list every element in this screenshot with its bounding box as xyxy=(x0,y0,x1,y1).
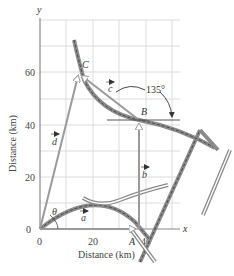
svg-text:c: c xyxy=(108,83,113,94)
svg-text:a: a xyxy=(81,212,86,223)
x-tick-20: 20 xyxy=(88,236,98,247)
y-tick-20: 20 xyxy=(25,172,35,183)
svg-text:d: d xyxy=(52,136,58,147)
vector-diagram: x y 0 20 40 0 20 40 60 Distance (km) Dis… xyxy=(0,0,234,276)
theta-label: θ xyxy=(52,206,57,217)
angle-135-label: 135° xyxy=(146,84,165,95)
vector-c-label: c xyxy=(106,82,114,94)
y-axis-title: Distance (km) xyxy=(7,115,19,172)
vector-b-label: b xyxy=(141,167,149,180)
point-b-label: B xyxy=(141,106,147,117)
angle-135-arrow xyxy=(160,92,172,117)
y-axis-letter: y xyxy=(36,4,42,15)
angle-135-arc xyxy=(116,86,145,92)
x-tick-0: 0 xyxy=(37,236,42,247)
svg-text:b: b xyxy=(142,169,147,180)
point-c-label: C xyxy=(82,59,89,70)
y-tick-40: 40 xyxy=(25,120,35,131)
vector-a-label: a xyxy=(80,211,88,223)
vector-d-label: d xyxy=(51,134,59,147)
point-a-label: A xyxy=(128,236,136,247)
x-axis-letter: x xyxy=(182,223,188,234)
x-axis-title: Distance (km) xyxy=(78,249,135,261)
y-tick-0: 0 xyxy=(26,224,31,235)
y-tick-60: 60 xyxy=(25,67,35,78)
